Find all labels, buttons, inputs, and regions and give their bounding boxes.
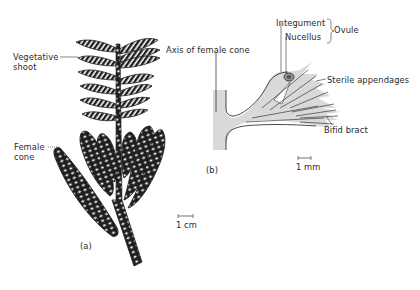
nucellus-shape	[286, 75, 291, 79]
label-axis-of-female-cone: Axis of female cone	[166, 45, 250, 55]
label-nucellus: Nucellus	[285, 32, 321, 42]
label-bifid-bract: Bifid bract	[324, 125, 368, 135]
label-vegetative-shoot-line2: shoot	[13, 62, 37, 72]
label-female-cone-line2: cone	[14, 152, 34, 162]
panel-label-a: (a)	[80, 241, 92, 251]
scale-label-cm: 1 cm	[176, 220, 197, 230]
label-vegetative-shoot-line1: Vegetative	[13, 52, 58, 62]
label-female-cone-line1: Female	[14, 142, 45, 152]
label-sterile-appendages: Sterile appendages	[327, 75, 409, 85]
label-ovule: Ovule	[334, 25, 359, 35]
panel-label-b: (b)	[206, 165, 218, 175]
ovule-brace	[327, 19, 334, 43]
figure-a-drawing	[0, 0, 420, 290]
label-integument: Integument	[276, 18, 325, 28]
female-cones	[54, 126, 165, 236]
scale-label-mm: 1 mm	[296, 162, 320, 172]
